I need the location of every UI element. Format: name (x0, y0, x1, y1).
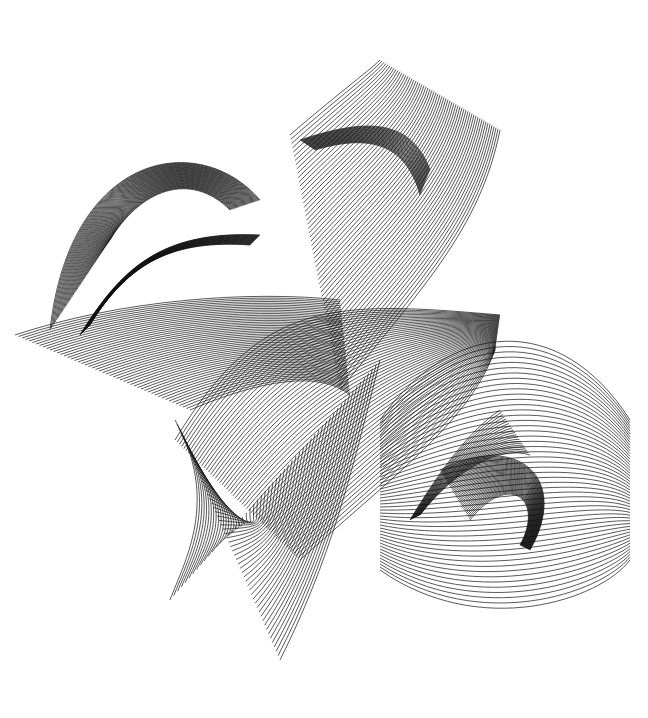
ribbon-left-swirl (50, 163, 260, 330)
abstract-line-artwork (0, 0, 648, 718)
ribbon-top-fin (300, 126, 430, 195)
ribbon-layer (15, 60, 630, 660)
ribbon-left-flat-sheet (15, 296, 350, 410)
